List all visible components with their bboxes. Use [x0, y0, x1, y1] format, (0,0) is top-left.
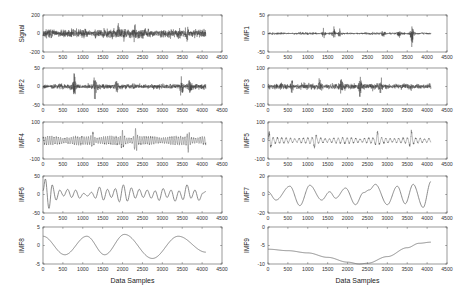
- x-tick-label: 2000: [342, 266, 354, 272]
- x-tick-label: 2500: [137, 266, 149, 272]
- y-tick-label: 0: [37, 242, 40, 248]
- x-tick-label: 500: [284, 215, 293, 221]
- x-tick-label: 1500: [322, 54, 334, 60]
- x-tick-label: 2000: [117, 215, 129, 221]
- subplot-imf1: 050010001500200025003000350040004500-500…: [243, 12, 453, 60]
- x-tick-label: 2500: [362, 54, 374, 60]
- x-tick-label: 3000: [157, 161, 169, 167]
- x-tick-label: 3000: [382, 161, 394, 167]
- x-tick-label: 1500: [322, 266, 334, 272]
- x-tick-label: 1000: [77, 215, 89, 221]
- x-tick-label: 3500: [401, 161, 413, 167]
- x-tick-label: 3500: [401, 54, 413, 60]
- x-tick-label: 4000: [196, 161, 208, 167]
- subplot-imf7: 050010001500200025003000350040004500-200…: [243, 173, 453, 221]
- x-tick-label: 3500: [401, 215, 413, 221]
- x-tick-label: 0: [42, 54, 45, 60]
- x-tick-label: 4000: [196, 107, 208, 113]
- x-tick-label: 1000: [302, 266, 314, 272]
- x-tick-label: 1500: [97, 54, 109, 60]
- y-axis-label: IMF1: [243, 26, 250, 41]
- x-tick-label: 0: [42, 107, 45, 113]
- axes-frame: [43, 227, 222, 264]
- x-tick-label: 2500: [362, 107, 374, 113]
- y-tick-label: 0: [262, 191, 265, 197]
- y-tick-label: 0: [262, 30, 265, 36]
- y-axis-label: IMF6: [18, 187, 25, 202]
- x-tick-label: 3500: [176, 161, 188, 167]
- x-tick-label: 2500: [137, 54, 149, 60]
- y-tick-label: -200: [30, 49, 40, 55]
- y-tick-label: 0: [37, 191, 40, 197]
- x-tick-label: 1000: [302, 54, 314, 60]
- x-tick-label: 4500: [441, 54, 453, 60]
- y-tick-label: 0: [262, 83, 265, 89]
- x-tick-label: 2000: [117, 54, 129, 60]
- x-tick-label: 4000: [421, 215, 433, 221]
- y-tick-label: -50: [33, 102, 41, 108]
- y-tick-label: -50: [258, 49, 266, 55]
- axes-frame: [268, 227, 447, 264]
- x-tick-label: 4500: [216, 266, 228, 272]
- subplot-signal: 050010001500200025003000350040004500-200…: [18, 12, 228, 60]
- x-tick-label: 2500: [362, 266, 374, 272]
- subplot-imf2: 050010001500200025003000350040004500-500…: [18, 65, 228, 113]
- y-axis-label: IMF9: [243, 238, 250, 253]
- x-tick-label: 2000: [117, 107, 129, 113]
- y-tick-label: 0: [37, 137, 40, 143]
- y-tick-label: -5: [260, 242, 265, 248]
- x-tick-label: 3500: [401, 266, 413, 272]
- y-axis-label: IMF7: [243, 187, 250, 202]
- x-tick-label: 0: [267, 161, 270, 167]
- x-tick-label: 3000: [382, 266, 394, 272]
- y-tick-label: -20: [258, 210, 266, 216]
- subplot-imf5: 050010001500200025003000350040004500-100…: [243, 119, 453, 167]
- x-tick-label: 2000: [342, 215, 354, 221]
- subplot-imf9: 050010001500200025003000350040004500-10-…: [243, 224, 453, 285]
- x-tick-label: 1500: [322, 161, 334, 167]
- x-tick-label: 3500: [401, 107, 413, 113]
- x-tick-label: 4000: [196, 266, 208, 272]
- x-tick-label: 3000: [382, 54, 394, 60]
- x-tick-label: 4500: [441, 215, 453, 221]
- x-tick-label: 2000: [117, 266, 129, 272]
- y-tick-label: -100: [255, 156, 265, 162]
- x-tick-label: 4500: [216, 54, 228, 60]
- x-tick-label: 4000: [196, 215, 208, 221]
- x-tick-label: 2500: [137, 107, 149, 113]
- x-tick-label: 2000: [342, 107, 354, 113]
- x-tick-label: 1000: [77, 107, 89, 113]
- y-axis-label: IMF8: [18, 238, 25, 253]
- x-tick-label: 3000: [382, 215, 394, 221]
- x-tick-label: 1000: [302, 215, 314, 221]
- x-tick-label: 500: [59, 54, 68, 60]
- x-tick-label: 3000: [157, 107, 169, 113]
- x-tick-label: 4000: [421, 266, 433, 272]
- y-tick-label: -10: [258, 261, 266, 267]
- x-tick-label: 2500: [137, 161, 149, 167]
- x-tick-label: 1000: [302, 161, 314, 167]
- subplot-imf4: 050010001500200025003000350040004500-100…: [18, 119, 228, 167]
- x-tick-label: 500: [284, 266, 293, 272]
- x-tick-label: 500: [284, 54, 293, 60]
- y-tick-label: -100: [255, 102, 265, 108]
- x-tick-label: 3500: [176, 54, 188, 60]
- y-tick-label: 100: [256, 65, 265, 71]
- y-tick-label: -100: [30, 156, 40, 162]
- x-tick-label: 4500: [441, 107, 453, 113]
- x-tick-label: 500: [59, 266, 68, 272]
- x-tick-label: 1500: [97, 266, 109, 272]
- y-tick-label: 0: [37, 30, 40, 36]
- x-tick-label: 3000: [157, 266, 169, 272]
- subplot-imf6: 050010001500200025003000350040004500-500…: [18, 173, 228, 221]
- x-tick-label: 4500: [216, 107, 228, 113]
- x-tick-label: 1000: [302, 107, 314, 113]
- x-tick-label: 3500: [176, 215, 188, 221]
- y-tick-label: 50: [34, 65, 40, 71]
- y-axis-label: Signal: [18, 24, 26, 43]
- x-tick-label: 1500: [322, 107, 334, 113]
- x-tick-label: 500: [284, 107, 293, 113]
- y-tick-label: 50: [259, 12, 265, 18]
- x-tick-label: 1500: [97, 161, 109, 167]
- y-axis-label: IMF2: [18, 79, 25, 94]
